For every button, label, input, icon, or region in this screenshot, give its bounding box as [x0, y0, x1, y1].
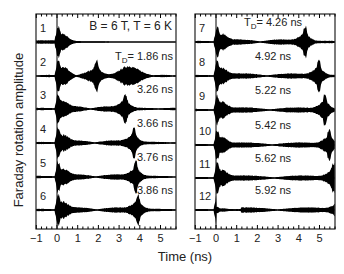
trace-number: 12: [199, 190, 211, 202]
x-tick-label: 2: [95, 232, 101, 244]
y-axis-label: Faraday rotation amplitude: [11, 53, 26, 208]
plot-canvas: 12TD= 1.86 ns33.26 ns43.66 ns53.76 ns63.…: [0, 0, 344, 274]
x-tick-label: 5: [316, 232, 322, 244]
delay-label: 3.86 ns: [137, 184, 174, 196]
trace-number: 10: [199, 125, 211, 137]
trace-number: 3: [40, 89, 46, 101]
delay-label: TD= 4.26 ns: [244, 16, 303, 31]
trace-number: 8: [199, 56, 205, 68]
x-tick-label: 4: [137, 232, 143, 244]
delay-label: 5.92 ns: [255, 184, 292, 196]
trace-number: 4: [40, 123, 46, 135]
x-tick-label: 4: [296, 232, 302, 244]
delay-label: 4.92 ns: [255, 50, 292, 62]
delay-label: 3.66 ns: [137, 117, 174, 129]
x-tick-label: 1: [234, 232, 240, 244]
x-tick-label: 5: [157, 232, 163, 244]
trace-number: 11: [199, 158, 210, 170]
x-tick-label: 3: [275, 232, 281, 244]
panel-left: 12TD= 1.86 ns33.26 ns43.66 ns53.76 ns63.…: [30, 14, 176, 244]
x-tick-label: 3: [116, 232, 122, 244]
trace-number: 9: [199, 90, 205, 102]
trace-number: 1: [40, 22, 46, 34]
x-tick-label: 0: [54, 232, 60, 244]
x-tick-label: 1: [75, 232, 81, 244]
panel-right: 7TD= 4.26 ns84.92 ns95.22 ns105.42 ns115…: [189, 14, 335, 244]
x-tick-label: −1: [189, 232, 202, 244]
x-tick-label: 0: [213, 232, 219, 244]
x-tick-label: 2: [254, 232, 260, 244]
trace-number: 2: [40, 56, 46, 68]
x-axis-label: Time (ns): [158, 249, 212, 264]
trace-number: 7: [199, 22, 205, 34]
trace-number: 6: [40, 190, 46, 202]
delay-label: 3.76 ns: [137, 151, 174, 163]
trace-number: 5: [40, 157, 46, 169]
delay-label: 5.42 ns: [255, 119, 292, 131]
delay-label: 5.62 ns: [255, 152, 292, 164]
x-tick-label: −1: [30, 232, 43, 244]
delay-label: 5.22 ns: [255, 84, 292, 96]
figure: 12TD= 1.86 ns33.26 ns43.66 ns53.76 ns63.…: [0, 0, 344, 274]
delay-label: TD= 1.86 ns: [115, 50, 174, 65]
delay-label: 3.26 ns: [137, 83, 174, 95]
field-temperature-annotation: B = 6 T, T = 6 K: [89, 19, 172, 33]
